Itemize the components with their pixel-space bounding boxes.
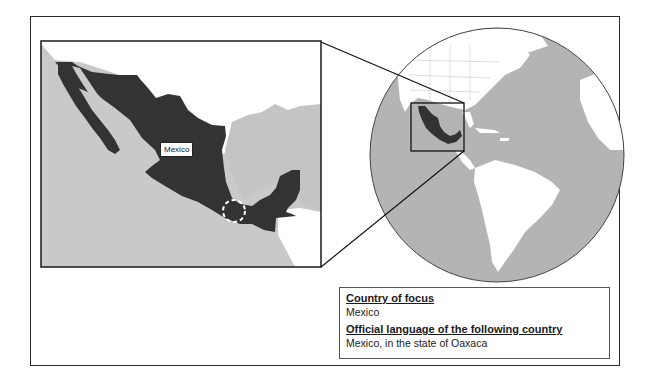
- country-of-focus-value: Mexico: [346, 305, 603, 319]
- official-language-heading: Official language of the following count…: [346, 322, 603, 336]
- country-of-focus-heading: Country of focus: [346, 291, 603, 305]
- official-language-value: Mexico, in the state of Oaxaca: [346, 336, 603, 350]
- mexico-map-label: Mexico: [160, 142, 193, 157]
- globe: [370, 28, 625, 282]
- info-panel: Country of focus Mexico Official languag…: [339, 287, 610, 359]
